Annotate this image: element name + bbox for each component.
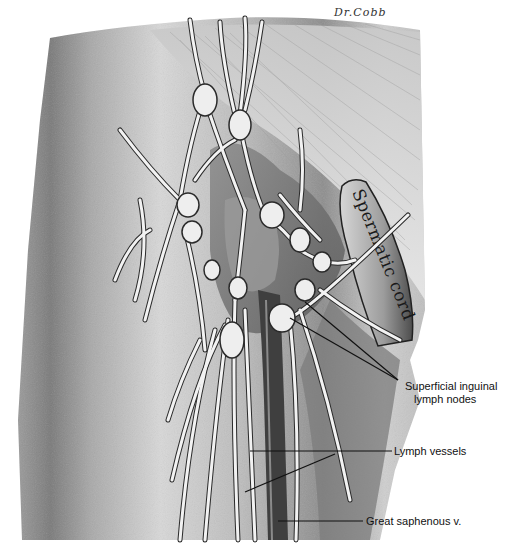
- label-lymph-vessels: Lymph vessels: [394, 445, 466, 458]
- label-superficial-inguinal-lymph-nodes: Superficial inguinal lymph nodes: [405, 380, 497, 406]
- artist-signature: Dr.Cobb: [334, 6, 387, 19]
- anatomical-illustration: Spermatic cord: [0, 0, 508, 551]
- label-line: Superficial inguinal: [405, 380, 497, 393]
- label-line: lymph nodes: [405, 393, 497, 406]
- label-great-saphenous-vein: Great saphenous v.: [366, 515, 461, 528]
